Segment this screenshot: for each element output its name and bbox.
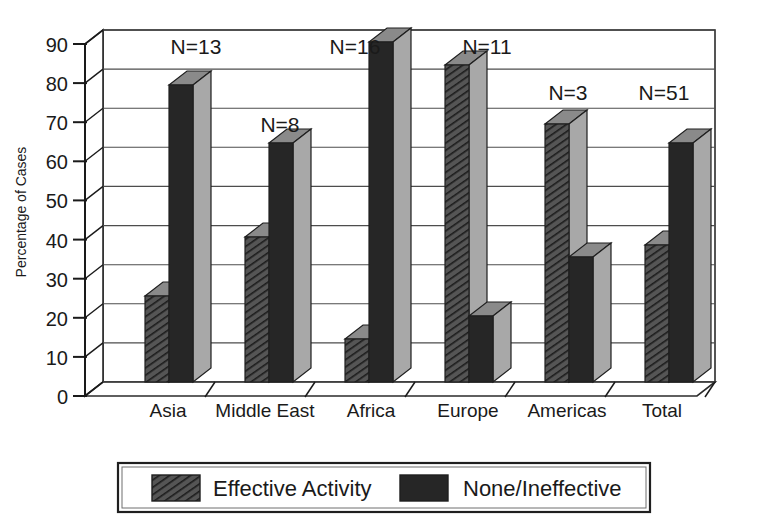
bar-europe-ineffective bbox=[469, 302, 511, 382]
x-tick-label-americas: Americas bbox=[527, 400, 606, 421]
y-tick-label-90: 90 bbox=[46, 34, 68, 56]
y-tick-label-10: 10 bbox=[46, 347, 68, 369]
chart-legend: Effective Activity None/Ineffective bbox=[118, 463, 650, 512]
annotation-n-europe: N=11 bbox=[462, 35, 511, 58]
y-tick-label-60: 60 bbox=[46, 151, 68, 173]
bar-chart-svg: 90 80 70 60 50 40 30 20 10 0 Percentage … bbox=[0, 0, 776, 528]
y-axis-title: Percentage of Cases bbox=[13, 147, 29, 278]
hatched-swatch bbox=[152, 475, 200, 501]
annotation-n-africa: N=16 bbox=[330, 35, 381, 58]
x-tick-label-total: Total bbox=[642, 400, 682, 421]
legend-label-effective-activity: Effective Activity bbox=[213, 476, 372, 501]
x-tick-label-asia: Asia bbox=[150, 400, 187, 421]
bar-americas-ineffective bbox=[569, 243, 611, 382]
y-tick-label-50: 50 bbox=[46, 190, 68, 212]
bar-total-ineffective bbox=[669, 129, 711, 382]
x-tick-label-europe: Europe bbox=[437, 400, 498, 421]
y-tick-label-70: 70 bbox=[46, 112, 68, 134]
bar-africa-ineffective bbox=[369, 28, 411, 382]
y-tick-label-80: 80 bbox=[46, 73, 68, 95]
legend-label-none-ineffective: None/Ineffective bbox=[463, 476, 622, 501]
legend-item-effective-activity[interactable]: Effective Activity bbox=[152, 475, 372, 501]
annotation-n-middle-east: N=8 bbox=[260, 113, 299, 136]
bar-asia-ineffective bbox=[169, 71, 211, 382]
y-tick-label-0: 0 bbox=[57, 386, 68, 408]
solid-dark-swatch bbox=[400, 475, 448, 501]
y-tick-label-40: 40 bbox=[46, 230, 68, 252]
annotation-n-asia: N=13 bbox=[171, 35, 222, 58]
annotation-n-total: N=51 bbox=[639, 81, 690, 104]
chart-figure: 90 80 70 60 50 40 30 20 10 0 Percentage … bbox=[0, 0, 776, 528]
bar-middle-east-ineffective bbox=[269, 129, 311, 382]
y-tick-label-30: 30 bbox=[46, 269, 68, 291]
legend-item-none-ineffective[interactable]: None/Ineffective bbox=[400, 475, 622, 501]
annotation-n-americas: N=3 bbox=[548, 81, 587, 104]
y-tick-label-20: 20 bbox=[46, 308, 68, 330]
x-tick-label-middle-east: Middle East bbox=[215, 400, 315, 421]
x-tick-label-africa: Africa bbox=[347, 400, 396, 421]
